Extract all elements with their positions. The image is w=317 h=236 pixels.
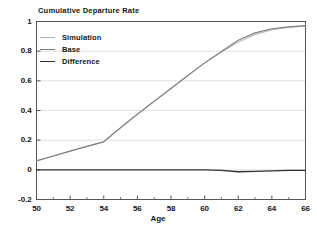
- x-tick-label: 54: [92, 204, 116, 213]
- x-tick-label: 58: [159, 204, 183, 213]
- x-tick-label: 52: [58, 204, 82, 213]
- x-tick-label: 56: [125, 204, 149, 213]
- x-tick-label: 66: [294, 204, 317, 213]
- legend-label: Base: [62, 45, 80, 54]
- legend-item[interactable]: Difference: [40, 55, 101, 67]
- y-tick-label: 0.6: [4, 76, 32, 85]
- y-tick-label: 0.8: [4, 46, 32, 55]
- y-tick-label: 0.2: [4, 135, 32, 144]
- legend-swatch-base: [40, 49, 55, 50]
- x-tick-label: 64: [260, 204, 284, 213]
- chart-legend: SimulationBaseDifference: [40, 31, 101, 67]
- legend-swatch-simulation: [40, 37, 55, 38]
- legend-item[interactable]: Simulation: [40, 31, 101, 43]
- x-tick-label: 62: [226, 204, 250, 213]
- y-tick-label: -0.2: [4, 195, 32, 204]
- x-tick-label: 50: [25, 204, 49, 213]
- y-tick-label: 0.4: [4, 106, 32, 115]
- chart-figure: Cumulative Departure Rate -0.200.20.40.6…: [0, 0, 316, 236]
- y-tick-label: 0: [4, 165, 32, 174]
- x-axis-title: Age: [0, 214, 316, 223]
- legend-swatch-difference: [40, 61, 55, 62]
- legend-label: Simulation: [62, 33, 101, 42]
- legend-item[interactable]: Base: [40, 43, 101, 55]
- x-tick-label: 60: [193, 204, 217, 213]
- legend-label: Difference: [62, 57, 100, 66]
- y-tick-label: 1: [4, 17, 32, 26]
